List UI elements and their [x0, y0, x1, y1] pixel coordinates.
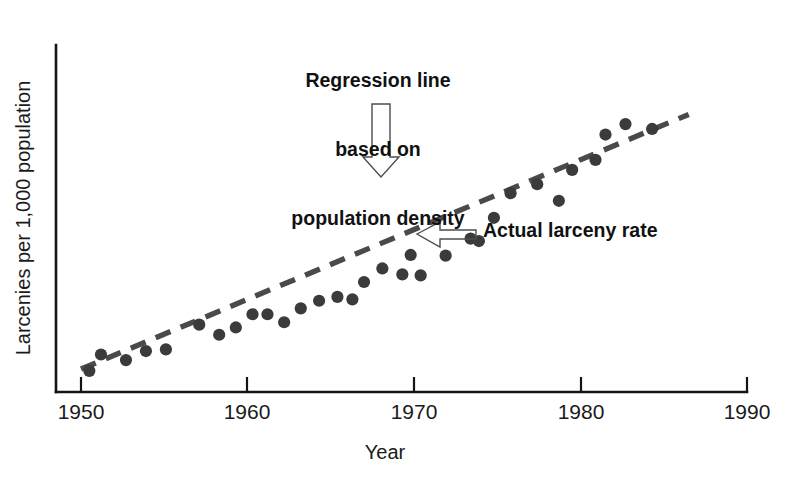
x-tick-label-1990: 1990: [724, 400, 771, 423]
data-point: [346, 293, 358, 305]
x-tick-label-1960: 1960: [224, 400, 271, 423]
regression-annotation-line-1: Regression line: [262, 69, 494, 92]
data-point: [213, 329, 225, 341]
x-axis-title: Year: [365, 441, 406, 463]
data-point: [358, 276, 370, 288]
data-point: [261, 308, 273, 320]
regression-annotation-line-3: population density: [262, 207, 494, 230]
x-tick-label-1970: 1970: [391, 400, 438, 423]
data-point: [619, 118, 631, 130]
data-point: [95, 348, 107, 360]
data-point: [120, 354, 132, 366]
data-point: [246, 308, 258, 320]
x-tick-label-1950: 1950: [58, 400, 105, 423]
data-point: [589, 154, 601, 166]
data-point: [566, 164, 578, 176]
data-point: [295, 302, 307, 314]
actual-rate-annotation-text: Actual larceny rate: [483, 219, 658, 242]
x-tick-label-1980: 1980: [558, 400, 605, 423]
data-point: [531, 178, 543, 190]
data-point: [160, 343, 172, 355]
data-point: [83, 365, 95, 377]
data-point: [278, 316, 290, 328]
regression-annotation-line-2: based on: [262, 138, 494, 161]
data-point: [193, 319, 205, 331]
data-point: [140, 345, 152, 357]
data-point: [504, 187, 516, 199]
x-axis-tick-labels: 1950 1960 1970 1980 1990: [58, 400, 771, 423]
larceny-rate-chart: 1950 1960 1970 1980 1990 Year Larcenies …: [0, 0, 792, 479]
data-point: [230, 321, 242, 333]
data-point: [599, 128, 611, 140]
data-point: [646, 123, 658, 135]
x-axis-ticks: [81, 377, 747, 392]
y-axis-title: Larcenies per 1,000 population: [12, 81, 34, 356]
data-point: [313, 295, 325, 307]
data-point: [553, 195, 565, 207]
data-point: [331, 291, 343, 303]
regression-annotation-text: Regression line based on population dens…: [262, 23, 494, 276]
